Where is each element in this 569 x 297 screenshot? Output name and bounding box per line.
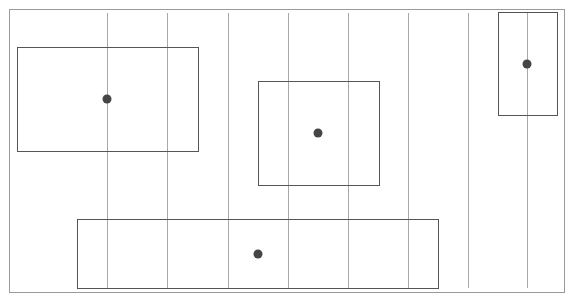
background [0, 0, 569, 297]
dot-center [314, 129, 323, 138]
dot-top-left [103, 95, 112, 104]
diagram-canvas [0, 0, 569, 297]
dot-bottom [254, 250, 263, 259]
dot-top-right [523, 60, 532, 69]
